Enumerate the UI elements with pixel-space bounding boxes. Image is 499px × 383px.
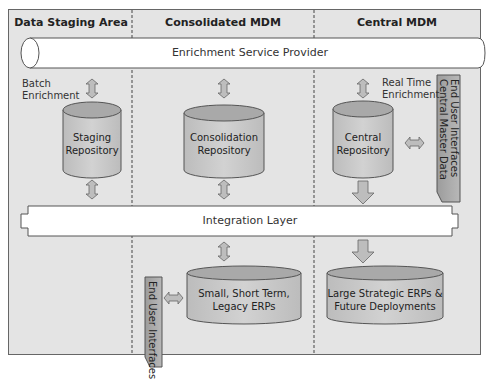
pipe-end: [21, 38, 39, 68]
central-repository-label: Central Repository: [333, 131, 393, 157]
column-header-data-staging: Data Staging Area: [10, 16, 132, 29]
column-header-consolidated-mdm: Consolidated MDM: [132, 16, 314, 29]
real-time-enrichment-label: Real Time Enrichment: [382, 77, 440, 101]
large-erps-label: Large Strategic ERPs & Future Deployment…: [327, 287, 443, 313]
column-header-central-mdm: Central MDM: [314, 16, 480, 29]
integration-layer-label: Integration Layer: [150, 215, 350, 227]
staging-repository-label: Staging Repository: [63, 131, 121, 157]
batch-enrichment-label: Batch Enrichment: [22, 78, 80, 102]
small-erps-label: Small, Short Term, Legacy ERPs: [187, 287, 301, 313]
central-interfaces-label: End User InterfacesCentral Master Data: [438, 79, 460, 199]
consolidation-repository-label: Consolidation Repository: [184, 131, 264, 157]
consolidated-interfaces-label: End User Interfaces: [147, 281, 158, 365]
enrichment-service-label: Enrichment Service Provider: [150, 47, 350, 59]
